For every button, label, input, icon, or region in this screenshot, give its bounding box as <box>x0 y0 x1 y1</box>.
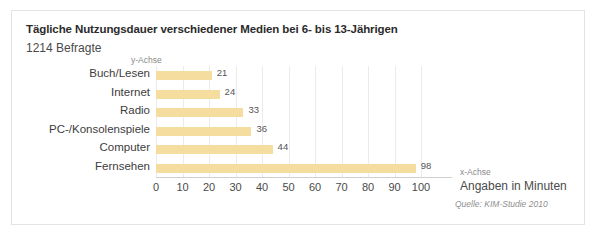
x-tick-label: 10 <box>176 181 188 193</box>
x-tick-label: 0 <box>153 181 159 193</box>
bar-row[interactable]: 24 <box>156 85 421 103</box>
category-label: Radio <box>0 104 150 116</box>
x-tick-label: 50 <box>282 181 294 193</box>
category-label: Fernsehen <box>0 160 150 172</box>
bar-value-label: 24 <box>225 86 236 97</box>
bar-value-label: 21 <box>217 67 228 78</box>
bar[interactable] <box>156 90 220 99</box>
category-label: Computer <box>0 141 150 153</box>
bar-row[interactable]: 44 <box>156 140 421 158</box>
bar-row[interactable]: 36 <box>156 122 421 140</box>
bar[interactable] <box>156 127 251 136</box>
bar[interactable] <box>156 145 273 154</box>
chart-title: Tägliche Nutzungsdauer verschiedener Med… <box>26 23 398 35</box>
x-tick-label: 80 <box>362 181 374 193</box>
bar-row[interactable]: 98 <box>156 159 421 177</box>
chart-subtitle: 1214 Befragte <box>26 41 101 55</box>
bar-row[interactable]: 21 <box>156 66 421 84</box>
y-axis-category-labels: Buch/LesenInternetRadioPC-/Konsolenspiel… <box>0 66 150 177</box>
x-tick-label: 40 <box>256 181 268 193</box>
bar-value-label: 44 <box>278 141 289 152</box>
x-tick-label: 90 <box>388 181 400 193</box>
bar-value-label: 98 <box>421 160 432 171</box>
bar-row[interactable]: 33 <box>156 103 421 121</box>
bar[interactable] <box>156 71 212 80</box>
category-label: Buch/Lesen <box>0 67 150 79</box>
category-label: Internet <box>0 86 150 98</box>
x-tick-label: 100 <box>412 181 430 193</box>
x-axis-label: x-Achse <box>460 167 491 177</box>
x-tick-label: 20 <box>203 181 215 193</box>
bar-value-label: 36 <box>256 123 267 134</box>
y-axis-label: y-Achse <box>131 55 162 65</box>
category-label: PC-/Konsolenspiele <box>0 123 150 135</box>
x-tick-label: 70 <box>335 181 347 193</box>
bar[interactable] <box>156 164 416 173</box>
chart-source-note: Quelle: KIM-Studie 2010 <box>455 199 548 209</box>
bar[interactable] <box>156 108 243 117</box>
x-tick-label: 60 <box>309 181 321 193</box>
x-axis-line <box>156 177 452 178</box>
bar-value-label: 33 <box>248 104 259 115</box>
plot-area: 212433364498 <box>156 66 421 177</box>
x-tick-label: 30 <box>229 181 241 193</box>
x-axis-units-label: Angaben in Minuten <box>460 179 567 193</box>
x-axis-tick-labels: 0102030405060708090100 <box>156 181 452 197</box>
chart-screenshot: Tägliche Nutzungsdauer verschiedener Med… <box>0 0 601 240</box>
